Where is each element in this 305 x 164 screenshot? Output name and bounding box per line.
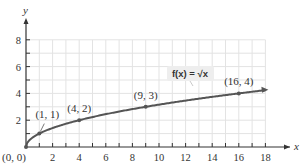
x-tick-label: 8 (130, 152, 135, 163)
y-axis-label: y (22, 4, 28, 16)
x-tick-label: 6 (103, 152, 108, 163)
data-point (77, 118, 81, 122)
x-tick-label: 2 (50, 152, 55, 163)
leader-line (40, 124, 44, 132)
x-tick-label: 10 (154, 152, 165, 163)
x-tick-label: 16 (234, 152, 245, 163)
y-tick-label: 8 (16, 35, 21, 46)
point-label: (16, 4) (224, 75, 254, 88)
x-tick-label: 4 (77, 152, 83, 163)
data-point (237, 91, 241, 95)
point-label: (9, 3) (134, 89, 158, 102)
y-tick-label: 2 (16, 115, 21, 126)
x-axis-arrow-icon (284, 145, 290, 150)
y-axis-arrow-icon (24, 18, 29, 24)
y-tick-label: 6 (16, 62, 21, 73)
point-label: (4, 2) (67, 102, 91, 115)
data-point (144, 105, 148, 109)
point-label: (0, 0) (2, 151, 26, 164)
x-tick-label: 12 (180, 152, 191, 163)
leader-line (190, 81, 193, 86)
y-tick-label: 4 (16, 88, 22, 99)
x-axis-label: x (293, 140, 299, 152)
function-label: f(x) = √x (167, 66, 214, 86)
data-point (37, 132, 41, 136)
function-label-text: f(x) = √x (172, 68, 209, 79)
x-tick-label: 18 (260, 152, 271, 163)
data-point (24, 145, 28, 149)
sqrt-function-chart: 246810121416182468 (0, 0)(1, 1)(4, 2)(9,… (0, 0, 305, 164)
point-label: (1, 1) (35, 108, 59, 121)
x-tick-label: 14 (207, 152, 218, 163)
